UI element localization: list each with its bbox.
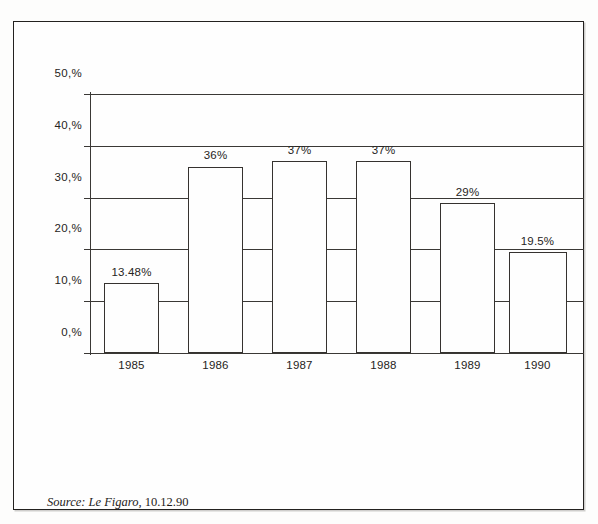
plot-area: 13.48% 36% 37% 37% 29% 19.5% — [90, 94, 584, 353]
y-tick-20 — [84, 249, 91, 250]
y-axis-label-0: 0,% — [61, 326, 82, 338]
gridline-20 — [90, 249, 584, 250]
y-axis — [90, 92, 91, 355]
y-tick-40 — [84, 146, 91, 147]
y-tick-10 — [84, 301, 91, 302]
y-axis-label-20: 20,% — [55, 222, 82, 234]
y-axis-label-40: 40,% — [55, 119, 82, 131]
x-axis-label-1986: 1986 — [180, 359, 251, 371]
y-tick-30 — [84, 198, 91, 199]
bar-value-1985: 13.48% — [96, 266, 167, 278]
chart-frame: 13.48% 36% 37% 37% 29% 19.5% 50,% 40,% 3… — [13, 21, 584, 510]
bar-value-1987: 37% — [264, 144, 335, 156]
gridline-50 — [90, 94, 584, 95]
x-axis-label-1988: 1988 — [348, 359, 419, 371]
y-tick-50 — [84, 94, 91, 95]
x-axis — [90, 353, 584, 354]
bar-value-1990: 19.5% — [502, 235, 573, 247]
x-axis-label-1989: 1989 — [432, 359, 503, 371]
x-axis-label-1990: 1990 — [502, 359, 573, 371]
source-publication: Le Figaro — [89, 495, 139, 509]
bar-1985[interactable] — [104, 283, 159, 353]
y-axis-labels: 50,% 40,% 30,% 20,% 10,% 0,% — [36, 22, 82, 524]
y-axis-label-50: 50,% — [55, 67, 82, 79]
x-axis-label-1987: 1987 — [264, 359, 335, 371]
y-axis-label-30: 30,% — [55, 171, 82, 183]
scanned-page: 13.48% 36% 37% 37% 29% 19.5% 50,% 40,% 3… — [0, 0, 598, 524]
source-date: 10.12.90 — [145, 495, 189, 509]
source-note: Source: Le Figaro, 10.12.90 — [47, 495, 188, 510]
bar-value-1986: 36% — [180, 149, 251, 161]
source-prefix: Source: — [47, 495, 85, 509]
bar-1986[interactable] — [188, 167, 243, 354]
gridline-30 — [90, 198, 584, 199]
bar-value-1988: 37% — [348, 144, 419, 156]
y-axis-label-10: 10,% — [55, 274, 82, 286]
bar-1988[interactable] — [356, 161, 411, 353]
bar-1989[interactable] — [440, 203, 495, 353]
bar-1987[interactable] — [272, 161, 327, 353]
gridline-40 — [90, 146, 584, 147]
x-axis-label-1985: 1985 — [96, 359, 167, 371]
x-axis-labels: 1985 1986 1987 1988 1989 1990 — [90, 359, 584, 377]
bar-1990[interactable] — [509, 252, 567, 353]
bar-value-1989: 29% — [432, 186, 503, 198]
